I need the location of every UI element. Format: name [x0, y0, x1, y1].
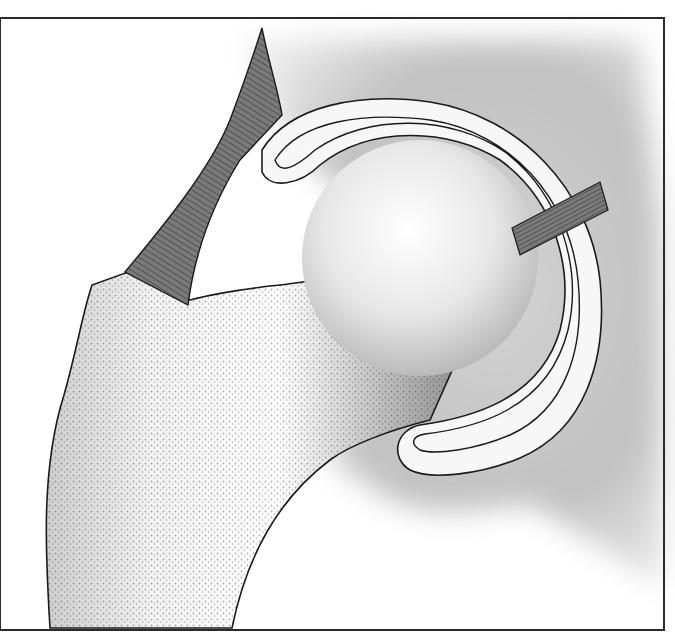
femoral-head [302, 140, 538, 376]
illustration-stage [0, 0, 675, 637]
muscle-tendon [125, 28, 282, 305]
hip-joint-illustration [0, 0, 675, 637]
